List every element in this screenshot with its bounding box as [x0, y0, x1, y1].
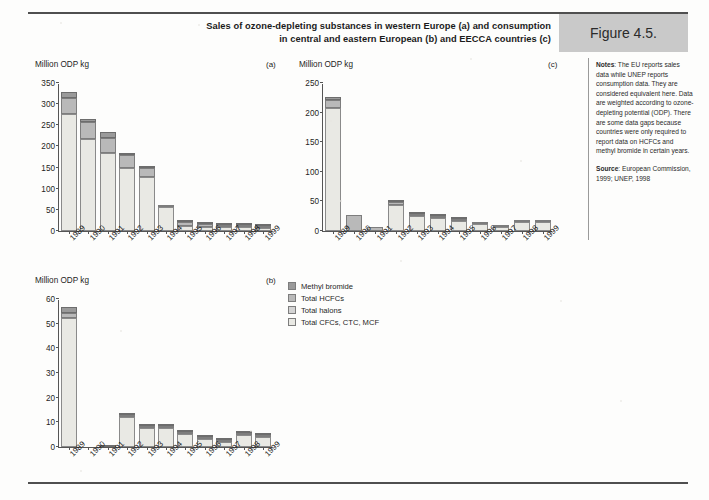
figure-header: Sales of ozone-depleting substances in w…	[28, 14, 688, 52]
chart-panel-c: Million ODP kg(c)05010015020025019891990…	[292, 58, 582, 258]
bar-c-1989	[325, 97, 341, 231]
bar-segment-total-cfcs-ctc-mcf	[119, 168, 135, 231]
y-tick-mark	[320, 112, 323, 113]
y-tick-mark	[56, 397, 59, 398]
bar-segment-total-hcfcs	[100, 138, 116, 153]
y-tick-label: 0	[314, 227, 323, 236]
scan-artifact	[560, 300, 562, 302]
figure-title-line-1: Sales of ozone-depleting substances in w…	[206, 20, 551, 33]
bar-segment-total-hcfcs	[139, 168, 155, 177]
scan-artifact	[340, 200, 342, 202]
bar-segment-total-cfcs-ctc-mcf	[325, 108, 341, 231]
bar-a-1992	[119, 153, 135, 231]
y-tick-label: 50	[310, 197, 323, 206]
y-tick-mark	[56, 82, 59, 83]
y-tick-label: 0	[50, 443, 59, 452]
legend-swatch-total-hcfcs	[288, 294, 296, 302]
y-tick-mark	[320, 141, 323, 142]
plot-area-b: 0102030405060	[58, 300, 272, 448]
y-axis-title: Million ODP kg	[299, 60, 353, 69]
y-tick-label: 150	[305, 138, 323, 147]
y-tick-mark	[56, 230, 59, 231]
y-tick-label: 20	[46, 393, 59, 402]
y-tick-mark	[56, 323, 59, 324]
bar-segment-total-hcfcs	[80, 122, 96, 139]
y-tick-mark	[56, 103, 59, 104]
y-tick-label: 30	[46, 369, 59, 378]
bar-a-1993	[139, 166, 155, 231]
legend-item: Total CFCs, CTC, MCF	[288, 317, 379, 328]
y-tick-label: 10	[46, 418, 59, 427]
y-tick-mark	[56, 298, 59, 299]
y-tick-label: 50	[46, 205, 59, 214]
scan-artifact	[198, 24, 200, 26]
y-tick-label: 350	[41, 79, 59, 88]
scan-artifact	[520, 160, 522, 162]
chart-panel-b: Million ODP kg(b)01020304050601989199019…	[28, 274, 290, 479]
plot-area-c: 050100150200250	[322, 84, 552, 232]
bottom-rule	[28, 482, 688, 484]
chart-panel-a: Million ODP kg(a)05010015020025030035019…	[28, 58, 290, 258]
bar-segment-total-cfcs-ctc-mcf	[80, 139, 96, 231]
y-tick-label: 0	[50, 227, 59, 236]
notes-panel: Notes: The EU reports sales data while U…	[596, 60, 694, 191]
y-tick-label: 100	[41, 184, 59, 193]
legend-swatch-methyl-bromide	[288, 282, 296, 290]
y-tick-label: 100	[305, 167, 323, 176]
figure-page: Sales of ozone-depleting substances in w…	[0, 0, 709, 500]
y-tick-label: 250	[41, 121, 59, 130]
page-title: Sales of ozone-depleting substances in w…	[206, 20, 551, 46]
y-tick-mark	[56, 209, 59, 210]
y-tick-mark	[56, 145, 59, 146]
y-tick-mark	[56, 124, 59, 125]
scan-artifact	[250, 430, 252, 432]
notes-paragraph: Notes: The EU reports sales data while U…	[596, 60, 694, 156]
figure-number-label: Figure 4.5.	[590, 25, 657, 41]
legend-label: Total HCFCs	[301, 294, 344, 303]
y-tick-mark	[56, 372, 59, 373]
y-tick-mark	[56, 347, 59, 348]
y-axis-title: Million ODP kg	[35, 60, 89, 69]
source-paragraph: Source: European Commission, 1999; UNEP,…	[596, 164, 694, 183]
bar-segment-total-cfcs-ctc-mcf	[139, 177, 155, 231]
y-tick-label: 60	[46, 295, 59, 304]
legend-label: Total CFCs, CTC, MCF	[301, 318, 379, 327]
y-tick-mark	[56, 446, 59, 447]
y-tick-label: 40	[46, 344, 59, 353]
panel-letter-b: (b)	[266, 276, 276, 285]
source-label: Source	[596, 165, 618, 172]
figure-title-line-2: in central and eastern European (b) and …	[206, 33, 551, 46]
notes-divider	[588, 58, 589, 240]
notes-text: : The EU reports sales data while UNEP r…	[596, 61, 694, 154]
bar-segment-total-cfcs-ctc-mcf	[100, 153, 116, 231]
y-tick-label: 200	[305, 108, 323, 117]
y-tick-mark	[320, 230, 323, 231]
scan-artifact	[620, 400, 622, 402]
bar-segment-total-hcfcs	[119, 155, 135, 168]
legend-item: Total halons	[288, 305, 379, 316]
bar-a-1991	[100, 132, 116, 231]
y-tick-label: 50	[46, 319, 59, 328]
bar-segment-total-cfcs-ctc-mcf	[61, 318, 77, 447]
figure-number-box: Figure 4.5.	[559, 14, 688, 52]
y-tick-label: 250	[305, 79, 323, 88]
figure-title-box: Sales of ozone-depleting substances in w…	[28, 14, 559, 52]
y-axis-title: Million ODP kg	[35, 276, 89, 285]
scan-artifact	[470, 58, 472, 60]
scan-artifact	[400, 260, 402, 262]
y-tick-label: 300	[41, 100, 59, 109]
bar-segment-total-hcfcs	[325, 100, 341, 108]
legend-item: Total HCFCs	[288, 293, 379, 304]
legend-item: Methyl bromide	[288, 281, 379, 292]
scan-artifact	[330, 120, 332, 122]
y-tick-mark	[320, 171, 323, 172]
bar-segment-total-cfcs-ctc-mcf	[61, 114, 77, 231]
panel-letter-a: (a)	[266, 60, 276, 69]
legend-swatch-total-halons	[288, 306, 296, 314]
y-tick-mark	[320, 200, 323, 201]
y-tick-mark	[56, 188, 59, 189]
legend-label: Total halons	[301, 306, 342, 315]
scan-artifact	[120, 330, 122, 332]
bar-a-1990	[80, 119, 96, 231]
plot-area-a: 050100150200250300350	[58, 84, 272, 232]
